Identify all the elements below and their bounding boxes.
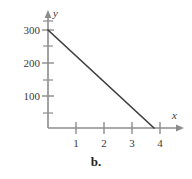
y-tick-label-100: 100 bbox=[14, 91, 40, 102]
y-axis-label: y bbox=[53, 8, 58, 19]
x-axis-label: x bbox=[172, 110, 177, 121]
x-tick-label-4: 4 bbox=[150, 138, 170, 149]
y-axis-arrow-icon bbox=[45, 10, 52, 18]
x-tick-label-1: 1 bbox=[66, 138, 86, 149]
figure-panel: 300 200 100 1 2 3 4 y x b. bbox=[0, 0, 192, 179]
figure-caption: b. bbox=[0, 155, 192, 168]
y-tick-label-200: 200 bbox=[14, 58, 40, 69]
x-tick-label-2: 2 bbox=[94, 138, 114, 149]
x-tick-label-3: 3 bbox=[122, 138, 142, 149]
x-axis-arrow-icon bbox=[176, 125, 184, 132]
y-tick-label-300: 300 bbox=[14, 25, 40, 36]
data-line-series bbox=[48, 30, 154, 128]
